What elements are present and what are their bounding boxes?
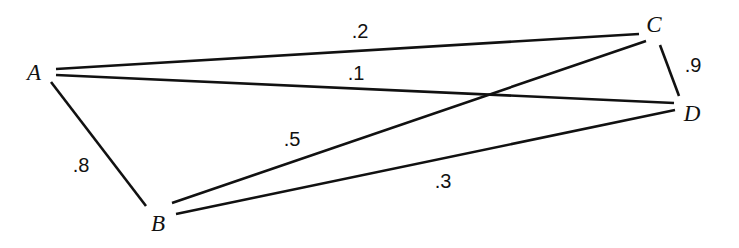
edge-line-a-d bbox=[56, 75, 674, 103]
edge-weight-b-d: .3 bbox=[435, 171, 452, 191]
edge-weight-a-b: .8 bbox=[73, 155, 90, 175]
edge-line-group bbox=[51, 34, 679, 214]
node-label-a: A bbox=[27, 61, 41, 84]
graph-diagram: ABCD .2.1.8.5.3.9 bbox=[0, 0, 739, 248]
graph-edges-canvas bbox=[0, 0, 739, 248]
edge-weight-b-c: .5 bbox=[284, 129, 301, 149]
node-label-d: D bbox=[684, 102, 701, 125]
edge-line-c-d bbox=[660, 45, 679, 96]
edge-weight-a-c: .2 bbox=[352, 21, 369, 41]
node-label-c: C bbox=[646, 13, 661, 36]
edge-line-b-d bbox=[176, 110, 675, 214]
edge-weight-a-d: .1 bbox=[348, 63, 365, 83]
node-label-b: B bbox=[151, 212, 165, 235]
edge-line-b-c bbox=[172, 41, 646, 203]
edge-weight-c-d: .9 bbox=[685, 55, 702, 75]
edge-line-a-b bbox=[51, 82, 146, 206]
